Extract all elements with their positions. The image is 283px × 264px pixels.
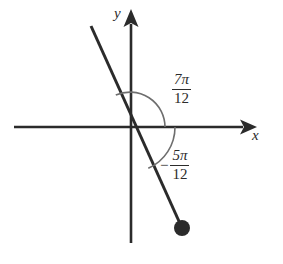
positive-angle-numerator: 7π xyxy=(172,72,191,90)
x-axis-label: x xyxy=(252,128,259,143)
terminal-point-dot xyxy=(174,220,190,236)
negative-angle-numerator: 5π xyxy=(170,148,189,166)
positive-angle-label: 7π 12 xyxy=(170,72,191,107)
y-axis-label: y xyxy=(114,6,121,21)
coordinate-plane-graphic xyxy=(0,0,283,264)
positive-angle-denominator: 12 xyxy=(172,90,191,107)
negative-angle-fraction: 5π 12 xyxy=(170,148,189,183)
angle-diagram-figure: y x 7π 12 − 5π 12 xyxy=(0,0,283,264)
negative-angle-label: − 5π 12 xyxy=(160,148,189,183)
negative-angle-sign: − xyxy=(160,158,168,173)
positive-angle-fraction: 7π 12 xyxy=(172,72,191,107)
negative-angle-denominator: 12 xyxy=(170,166,189,183)
